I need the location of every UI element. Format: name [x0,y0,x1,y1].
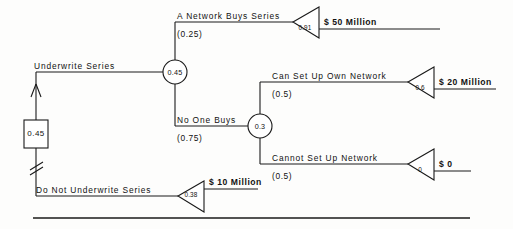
branch-label-can-set-up: Can Set Up Own Network [272,71,387,81]
payoff-20-million: $ 20 Million [439,77,492,87]
terminal-triangle-50m [293,7,319,38]
terminal-triangle-20m [408,67,434,98]
payoff-0: $ 0 [439,159,453,169]
payoff-10-million: $ 10 Million [209,177,262,187]
payoff-50-million: $ 50 Million [324,17,377,27]
chance-node-045-value: 0.45 [164,68,186,77]
terminal-value-10m: 0.38 [181,191,201,198]
terminal-triangle-0 [408,149,434,180]
probability-cannot-set-up: (0.5) [272,171,292,181]
branch-label-underwrite: Underwrite Series [34,61,115,71]
probability-no-one-buys: (0.75) [177,133,202,143]
branch-label-do-not-underwrite: Do Not Underwrite Series [36,185,151,195]
decision-node-value: 0.45 [26,129,46,138]
probability-can-set-up: (0.5) [272,89,292,99]
branch-label-network-buys: A Network Buys Series [177,11,280,21]
terminal-value-50m: 0.91 [296,24,314,31]
decision-tree-diagram: Underwrite Series Do Not Underwrite Seri… [0,0,513,229]
branch-label-cannot-set-up: Cannot Set Up Network [272,153,378,163]
terminal-value-0: 0 [411,166,429,173]
chance-node-03-value: 0.3 [249,122,271,131]
terminal-value-20m: 0.6 [411,84,429,91]
probability-network-buys: (0.25) [177,29,202,39]
branch-label-no-one-buys: No One Buys [177,115,236,125]
